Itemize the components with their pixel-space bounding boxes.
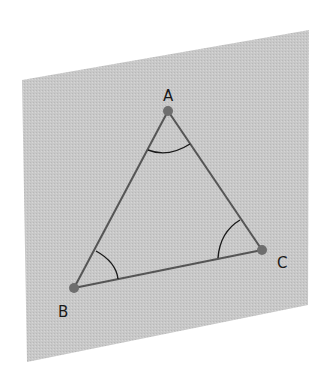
label-c: C	[277, 254, 287, 272]
vertex-a	[163, 106, 173, 116]
vertex-c	[257, 245, 267, 255]
label-a: A	[163, 87, 174, 105]
triangle-diagram: A B C	[0, 0, 330, 375]
label-b: B	[58, 303, 68, 321]
vertex-b	[69, 283, 79, 293]
